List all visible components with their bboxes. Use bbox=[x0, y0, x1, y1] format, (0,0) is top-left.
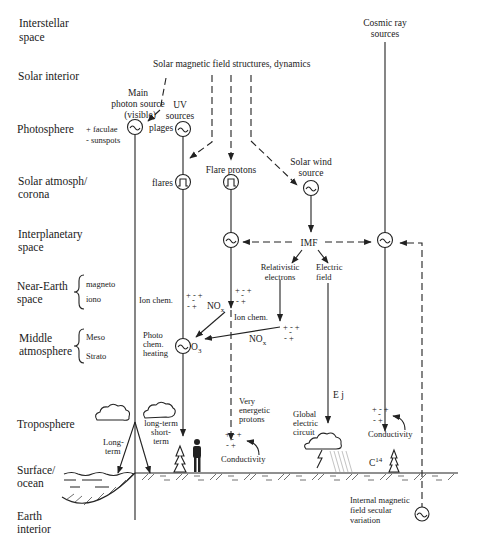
electric-field-label-2: field bbox=[316, 272, 332, 282]
wave-icon-cosmic-modulation bbox=[378, 233, 393, 248]
imf-label: IMF bbox=[301, 238, 318, 248]
dash-solar-to-solarwind bbox=[251, 75, 297, 185]
wave-icon-solar-wind bbox=[304, 181, 319, 196]
sun-earth-coupling-diagram: Interstellar space Solar interior Photos… bbox=[0, 0, 478, 543]
svg-text:- +: - + bbox=[236, 296, 246, 306]
arrow-nox1-to-o3 bbox=[196, 312, 225, 337]
long-term-label-2: term bbox=[105, 446, 121, 456]
sublevel-strato: Strato bbox=[86, 351, 106, 361]
global-circuit-label-3: circuit bbox=[293, 427, 315, 437]
main-photon-label-3: (visible) bbox=[124, 110, 156, 121]
nox-label-1: NOx bbox=[207, 301, 225, 314]
ion-group-2: + - + - - + bbox=[235, 285, 252, 306]
level-near-earth-2: space bbox=[17, 293, 43, 306]
level-labels: Interstellar space Solar interior Photos… bbox=[17, 17, 88, 535]
relativistic-label: Relativistic bbox=[261, 262, 300, 272]
ion-chem-label-1: Ion chem. bbox=[139, 295, 173, 305]
level-middle-atmosphere-2: atmosphere bbox=[19, 345, 72, 358]
solar-field-label: Solar magnetic field structures, dynamic… bbox=[153, 59, 311, 69]
pulse-icon-flares bbox=[176, 175, 191, 190]
wave-icon-ozone bbox=[176, 339, 191, 354]
sublevel-meso: Meso bbox=[86, 332, 105, 342]
o3-label: O3 bbox=[191, 342, 202, 355]
tree-icon-right bbox=[389, 450, 399, 472]
brace-near-earth bbox=[74, 275, 84, 309]
relativistic-label-2: electrons bbox=[265, 272, 296, 282]
internal-field-label: Internal magnetic bbox=[350, 495, 410, 505]
svg-text:- +: - + bbox=[226, 440, 236, 450]
ion-group-5: + - + - - + bbox=[372, 404, 389, 425]
wave-icon-uv bbox=[176, 122, 191, 137]
uv-label: UV bbox=[173, 100, 187, 110]
svg-text:- +: - + bbox=[373, 415, 383, 425]
flares-label: flares bbox=[152, 178, 173, 188]
photochem-label-3: heating bbox=[143, 348, 169, 358]
level-surface: Surface/ bbox=[17, 464, 56, 476]
ion-group-4: + - + - - + bbox=[225, 429, 242, 450]
level-troposphere: Troposphere bbox=[17, 418, 75, 431]
ion-chem-label-2: Ion chem. bbox=[234, 312, 268, 322]
ion-group-1: + - + - - + bbox=[186, 290, 203, 311]
long-short-label-3: term bbox=[153, 436, 169, 446]
level-near-earth: Near-Earth bbox=[17, 280, 68, 292]
cloud-icon-left bbox=[96, 404, 130, 420]
cosmic-ray-label-2: sources bbox=[371, 29, 400, 39]
sunspots-label: - sunspots bbox=[86, 135, 120, 145]
person-icon bbox=[193, 439, 201, 472]
brace-middle-atm bbox=[74, 329, 84, 363]
svg-text:- +: - + bbox=[187, 301, 197, 311]
level-interstellar-2: space bbox=[19, 31, 45, 44]
level-solar-atmosphere-2: corona bbox=[18, 188, 49, 200]
cosmic-ray-label: Cosmic ray bbox=[363, 18, 407, 28]
cloud-icon-middle bbox=[144, 402, 176, 418]
internal-field-dash bbox=[400, 243, 422, 510]
level-surface-2: ocean bbox=[17, 477, 44, 489]
level-middle-atmosphere: Middle bbox=[19, 332, 52, 344]
uv-label-2: sources bbox=[166, 111, 195, 121]
solar-wind-label-2: source bbox=[299, 168, 324, 178]
wave-icon-interplanetary bbox=[224, 233, 239, 248]
level-solar-interior: Solar interior bbox=[18, 70, 79, 82]
faculae-label: + faculae bbox=[86, 124, 118, 134]
arrow-long-short-term bbox=[135, 422, 150, 473]
main-photon-label: Main bbox=[128, 88, 148, 98]
electric-field-label: Electric bbox=[316, 262, 343, 272]
level-interplanetary: Interplanetary bbox=[18, 228, 83, 241]
solar-wind-label: Solar wind bbox=[290, 157, 332, 167]
level-interstellar: Interstellar bbox=[19, 17, 69, 29]
storm-cloud-icon bbox=[305, 433, 352, 472]
level-earth: Earth bbox=[17, 510, 42, 522]
conductivity-label-1: Conductivity bbox=[221, 454, 266, 464]
internal-field-label-3: variation bbox=[350, 515, 381, 525]
level-interplanetary-2: space bbox=[18, 241, 44, 254]
conductivity-label-2: Conductivity bbox=[368, 429, 413, 439]
tree-icon-left bbox=[174, 446, 186, 472]
svg-text:- +: - + bbox=[284, 333, 294, 343]
ion-group-3: + - + - - + bbox=[283, 322, 300, 343]
sublevel-iono: iono bbox=[86, 294, 101, 304]
ej-label: E j bbox=[333, 390, 344, 400]
flare-protons-label: Flare protons bbox=[206, 165, 257, 175]
main-photon-label-2: photon source bbox=[111, 99, 165, 109]
arrow-nox2-to-o3 bbox=[205, 327, 280, 339]
pulse-icon-flare-protons bbox=[224, 175, 239, 190]
level-photosphere: Photosphere bbox=[17, 123, 74, 136]
internal-field-label-2: field secular bbox=[350, 505, 392, 515]
level-earth-2: interior bbox=[17, 523, 51, 535]
nox-label-2: NOx bbox=[249, 334, 267, 347]
braces: magneto iono Meso Strato bbox=[74, 275, 115, 363]
level-solar-atmosphere: Solar atmosph/ bbox=[18, 175, 88, 188]
very-energetic-label-3: protons bbox=[239, 414, 265, 424]
plages-label: plages bbox=[149, 123, 174, 133]
c14-label: C14 bbox=[369, 456, 383, 468]
wave-icon-main-photon bbox=[128, 120, 143, 135]
sublevel-magneto: magneto bbox=[86, 279, 115, 289]
